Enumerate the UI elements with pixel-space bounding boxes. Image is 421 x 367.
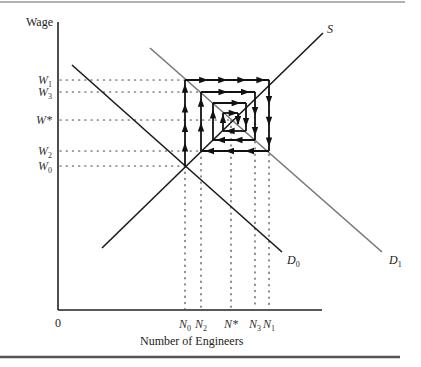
wage-label: W2	[38, 144, 52, 160]
wage-tick-labels: W1W3W*W2W0	[36, 73, 52, 175]
supply-curve-s	[102, 33, 323, 248]
employment-label-sub: 1	[271, 324, 275, 333]
wage-label-sub: 1	[48, 80, 52, 89]
wage-label-sub: 2	[48, 151, 52, 160]
arrow-icon	[241, 89, 250, 95]
arrow-icon	[243, 118, 249, 127]
arrow-icon	[266, 138, 272, 147]
axes: Wage 0 Number of Engineers	[26, 15, 322, 348]
demand1-label: D1	[388, 253, 402, 269]
cobweb-diagram: Wage 0 Number of Engineers S D0 D1 W1W3W…	[0, 0, 421, 367]
arrow-icon	[182, 103, 188, 112]
employment-label: N1	[262, 317, 275, 333]
employment-label-base: N*	[223, 317, 238, 331]
demand0-label-base: D	[286, 253, 296, 267]
arrow-icon	[232, 100, 241, 106]
origin-label: 0	[55, 316, 61, 330]
arrow-icon	[266, 96, 272, 105]
arrow-icon	[234, 137, 243, 143]
arrow-icon	[220, 114, 226, 123]
arrow-icon	[245, 148, 254, 154]
demand0-label: D0	[286, 253, 300, 269]
arrow-icon	[198, 98, 204, 107]
arrow-icon	[237, 77, 246, 83]
arrow-icon	[252, 107, 258, 116]
demand0-label-sub: 0	[296, 260, 300, 269]
wage-label-sub: 3	[48, 92, 52, 101]
wage-label-base: W*	[36, 113, 52, 127]
arrow-icon	[266, 117, 272, 126]
demand1-label-sub: 1	[398, 260, 402, 269]
wage-label-sub: 0	[48, 166, 52, 175]
arrow-icon	[252, 127, 258, 136]
x-axis-title: Number of Engineers	[140, 334, 244, 348]
employment-label-sub: 2	[203, 324, 207, 333]
arrow-icon	[182, 123, 188, 132]
demand1-label-base: D	[388, 253, 398, 267]
arrow-icon	[210, 110, 216, 119]
arrow-icon	[225, 148, 234, 154]
arrow-icon	[198, 122, 204, 131]
demand-curve-d0	[72, 65, 282, 252]
employment-label: N0	[178, 317, 191, 333]
employment-tick-labels: N0N2N*N3N1	[178, 317, 275, 333]
employment-label-sub: 3	[257, 324, 261, 333]
arrow-icon	[182, 143, 188, 152]
employment-label: N*	[223, 317, 238, 331]
arrow-icon	[226, 128, 235, 134]
supply-label: S	[327, 22, 333, 36]
wage-label: W0	[38, 159, 52, 175]
employment-label: N3	[248, 317, 261, 333]
arrow-icon	[199, 77, 208, 83]
arrow-icon	[229, 110, 238, 116]
arrow-icon	[205, 148, 214, 154]
arrow-icon	[218, 77, 227, 83]
wage-label: W*	[36, 113, 52, 127]
cobweb-path	[182, 77, 272, 166]
curves: S D0 D1	[72, 22, 402, 269]
employment-label: N2	[194, 317, 207, 333]
employment-label-sub: 0	[187, 324, 191, 333]
arrow-icon	[219, 89, 228, 95]
arrow-icon	[256, 77, 265, 83]
y-axis-title: Wage	[26, 15, 53, 29]
arrow-icon	[182, 84, 188, 93]
arrow-icon	[216, 137, 225, 143]
